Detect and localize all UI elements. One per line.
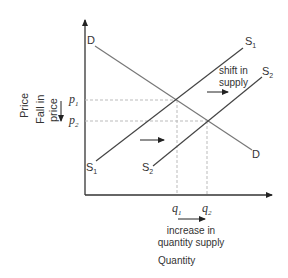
q1-label: q1: [172, 202, 182, 217]
shift-in-supply-label: shift in supply: [219, 65, 248, 89]
supply2-label-bottom: S2: [142, 162, 153, 175]
supply1-label-bottom: S1: [86, 162, 97, 175]
q2-label: q2: [202, 202, 212, 217]
demand-curve: [95, 46, 252, 150]
increase-in-quantity-label: increase in quantity supply: [156, 225, 226, 249]
supply1-label-top: S1: [245, 36, 256, 49]
price-label: price: [47, 98, 59, 122]
supply2-label-top: S2: [262, 66, 273, 79]
demand-label-top: D: [87, 35, 95, 46]
p1-label: p1: [69, 93, 79, 108]
fall-in-label: Fall in: [34, 95, 46, 124]
demand-label-bottom: D: [252, 149, 260, 160]
x-axis-label: Quantity: [158, 256, 195, 266]
y-axis-label: Price: [18, 93, 30, 118]
p2-label: p2: [69, 114, 79, 129]
